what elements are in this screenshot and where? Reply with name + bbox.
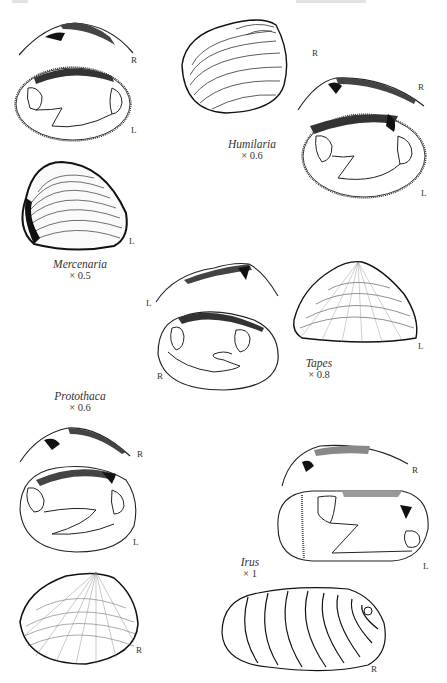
tapes-hinge-profile-illustration bbox=[154, 258, 284, 303]
tapes-valve-label-r: R bbox=[157, 371, 163, 381]
tapes-caption: Tapes × 0.8 bbox=[294, 357, 344, 381]
protothaca-genus-name: Protothaca bbox=[40, 390, 120, 402]
humilaria-genus-name: Humilaria bbox=[212, 138, 292, 150]
irus-valve-label-r: R bbox=[371, 664, 377, 674]
protothaca-hinge-profile-illustration bbox=[18, 422, 133, 464]
irus-valve-label-r-hinge: R bbox=[412, 465, 418, 475]
tapes-exterior-illustration bbox=[292, 258, 422, 346]
irus-scale: × 1 bbox=[230, 568, 270, 580]
humilaria-valve-label-l: L bbox=[421, 188, 427, 198]
mercenaria-caption: Mercenaria × 0.5 bbox=[40, 258, 120, 282]
protothaca-scale: × 0.6 bbox=[40, 402, 120, 414]
humilaria-caption: Humilaria × 0.6 bbox=[212, 138, 292, 162]
tapes-valve-label-l-hinge: L bbox=[146, 298, 152, 308]
mercenaria-scale: × 0.5 bbox=[40, 270, 120, 282]
humilaria-exterior-illustration bbox=[176, 15, 296, 115]
protothaca-interior-illustration bbox=[16, 460, 140, 555]
protothaca-valve-label-r: R bbox=[136, 645, 142, 655]
mercenaria-interior-illustration bbox=[12, 58, 134, 143]
tapes-scale: × 0.8 bbox=[294, 369, 344, 381]
humilaria-valve-label-r-hinge: R bbox=[418, 82, 424, 92]
protothaca-valve-label-r-hinge: R bbox=[137, 449, 143, 459]
protothaca-caption: Protothaca × 0.6 bbox=[40, 390, 120, 414]
mercenaria-valve-label-l: L bbox=[131, 125, 137, 135]
tapes-valve-label-l-exterior: L bbox=[418, 341, 424, 351]
page-number-fragment bbox=[12, 0, 28, 3]
tapes-genus-name: Tapes bbox=[294, 357, 344, 369]
mercenaria-exterior-illustration bbox=[14, 158, 134, 253]
humilaria-scale: × 0.6 bbox=[212, 150, 292, 162]
humilaria-valve-label-r-exterior: R bbox=[312, 48, 318, 58]
irus-exterior-illustration bbox=[218, 583, 398, 673]
mercenaria-genus-name: Mercenaria bbox=[40, 258, 120, 270]
irus-genus-name: Irus bbox=[230, 556, 270, 568]
irus-hinge-profile-illustration bbox=[280, 440, 415, 488]
irus-valve-label-l: L bbox=[423, 561, 429, 571]
irus-caption: Irus × 1 bbox=[230, 556, 270, 580]
protothaca-valve-label-l: L bbox=[133, 537, 139, 547]
protothaca-exterior-illustration bbox=[16, 566, 142, 666]
mercenaria-valve-label-l-exterior: L bbox=[129, 236, 135, 246]
irus-interior-illustration bbox=[272, 487, 432, 567]
humilaria-interior-illustration bbox=[298, 106, 430, 201]
running-header-fragment bbox=[296, 0, 366, 3]
mercenaria-hinge-profile-illustration bbox=[15, 15, 135, 60]
tapes-interior-illustration bbox=[154, 302, 284, 392]
